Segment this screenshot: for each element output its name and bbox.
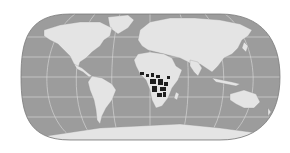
world-map (0, 0, 290, 153)
